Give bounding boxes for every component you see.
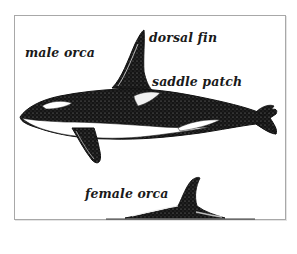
dorsal-fin-label: dorsal fin	[149, 30, 217, 45]
dorsal-fin-shape	[112, 30, 152, 90]
female-orca-label: female orca	[85, 186, 168, 201]
male-orca-label: male orca	[25, 45, 95, 60]
saddle-patch-label: saddle patch	[152, 74, 242, 89]
